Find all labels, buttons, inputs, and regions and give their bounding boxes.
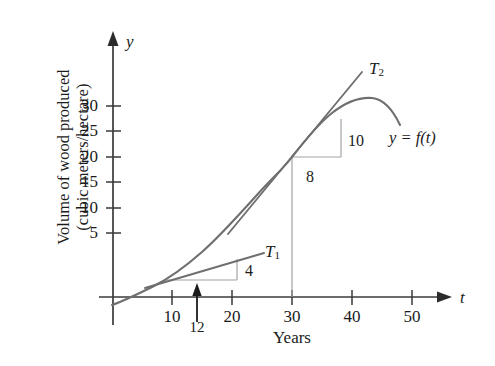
y-tick-label-20: 20 [68, 148, 98, 165]
tangent2-run-label: 8 [306, 169, 314, 185]
curve-equation-label: y = f(t) [389, 130, 436, 147]
marker-arrow-12 [192, 283, 201, 322]
y-tick-label-30: 30 [68, 97, 98, 114]
y-tick-label-5: 5 [68, 224, 98, 241]
y-tick-label-15: 15 [68, 173, 98, 190]
y-axis-arrowhead [108, 31, 119, 46]
tangent-label-T2: T2 [369, 60, 384, 78]
x-tick-label-40: 40 [337, 308, 367, 325]
x-axis-arrowhead [437, 292, 452, 303]
tangent-lines [145, 72, 362, 288]
x-axis-variable-label: t [460, 289, 465, 306]
tangent2-rise-label: 10 [348, 133, 364, 149]
x-tick-label-10: 10 [157, 308, 187, 325]
y-axis-variable-label: y [126, 33, 134, 50]
tangent2-subscript: 2 [378, 66, 384, 78]
x-axis-name-label: Years [262, 329, 322, 346]
y-tick-label-25: 25 [68, 122, 98, 139]
wood-volume-figure: Volume of wood produced (cubic meters/he… [0, 0, 495, 366]
annotation-lines [165, 119, 341, 297]
tangent-label-T1: T1 [265, 243, 280, 261]
tangent1-rise-label: 4 [245, 263, 253, 279]
y-tick-label-10: 10 [68, 199, 98, 216]
tangent1-subscript: 1 [274, 249, 280, 261]
x-tick-label-50: 50 [397, 308, 427, 325]
x-tick-label-30: 30 [277, 308, 307, 325]
marker-label-12: 12 [185, 320, 209, 335]
x-tick-label-20: 20 [217, 308, 247, 325]
